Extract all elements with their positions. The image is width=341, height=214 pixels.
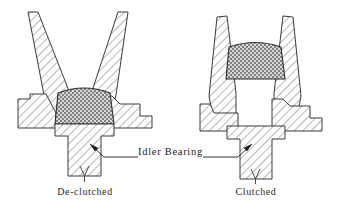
clutch-schematic	[0, 0, 341, 214]
idler-bearing-callout-label: Idler Bearing	[0, 146, 341, 157]
diagram-canvas: Idler Bearing De-clutched Clutched	[0, 0, 341, 214]
assembly-clutched	[200, 16, 322, 184]
caption-clutched: Clutched	[171, 186, 341, 197]
right-idler-bearing	[226, 43, 285, 80]
caption-de-clutched: De-clutched	[0, 186, 170, 197]
left-idler-bearing	[55, 88, 114, 124]
